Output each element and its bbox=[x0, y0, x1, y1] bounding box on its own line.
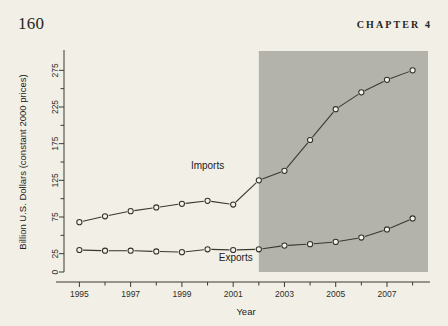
y-tick-label: 125 bbox=[50, 173, 60, 187]
series-label-imports: Imports bbox=[191, 160, 224, 171]
data-point bbox=[102, 248, 107, 253]
data-point bbox=[256, 247, 261, 252]
data-point bbox=[154, 205, 159, 210]
y-tick-label: 225 bbox=[50, 100, 60, 114]
data-point bbox=[410, 216, 415, 221]
recession-shading bbox=[259, 51, 428, 272]
x-tick-label: 2005 bbox=[326, 289, 345, 299]
y-tick-label: 275 bbox=[50, 63, 60, 77]
y-tick-label: 25 bbox=[50, 249, 60, 259]
x-tick-label: 2003 bbox=[275, 289, 294, 299]
chart-figure: 0257512517522527519951997199920012003200… bbox=[0, 0, 448, 326]
data-point bbox=[77, 247, 82, 252]
data-point bbox=[410, 68, 415, 73]
data-point bbox=[359, 235, 364, 240]
data-point bbox=[128, 248, 133, 253]
data-point bbox=[384, 227, 389, 232]
data-point bbox=[205, 198, 210, 203]
data-point bbox=[231, 202, 236, 207]
x-tick-label: 1997 bbox=[121, 289, 140, 299]
data-point bbox=[333, 107, 338, 112]
series-labels: ImportsExports bbox=[191, 160, 253, 263]
x-tick-label: 1999 bbox=[172, 289, 191, 299]
x-tick-label: 1995 bbox=[70, 289, 89, 299]
data-point bbox=[384, 77, 389, 82]
data-point bbox=[282, 168, 287, 173]
x-tick-label: 2007 bbox=[378, 289, 397, 299]
data-point bbox=[128, 209, 133, 214]
y-tick-label: 0 bbox=[50, 269, 60, 274]
x-axis-title: Year bbox=[236, 306, 255, 317]
data-point bbox=[307, 242, 312, 247]
data-point bbox=[307, 137, 312, 142]
shaded-span bbox=[259, 51, 428, 272]
y-tick-label: 75 bbox=[50, 212, 60, 222]
line-chart: 0257512517522527519951997199920012003200… bbox=[0, 0, 448, 326]
data-point bbox=[102, 214, 107, 219]
data-point bbox=[282, 243, 287, 248]
series-label-exports: Exports bbox=[219, 252, 253, 263]
data-point bbox=[256, 178, 261, 183]
y-tick-label: 175 bbox=[50, 136, 60, 150]
y-axis-title: Billion U.S. Dollars (constant 2000 pric… bbox=[17, 74, 28, 249]
x-tick-label: 2001 bbox=[224, 289, 243, 299]
data-point bbox=[359, 90, 364, 95]
data-point bbox=[154, 249, 159, 254]
data-point bbox=[179, 250, 184, 255]
data-point bbox=[179, 201, 184, 206]
data-point bbox=[77, 220, 82, 225]
data-point bbox=[333, 239, 338, 244]
data-point bbox=[205, 247, 210, 252]
